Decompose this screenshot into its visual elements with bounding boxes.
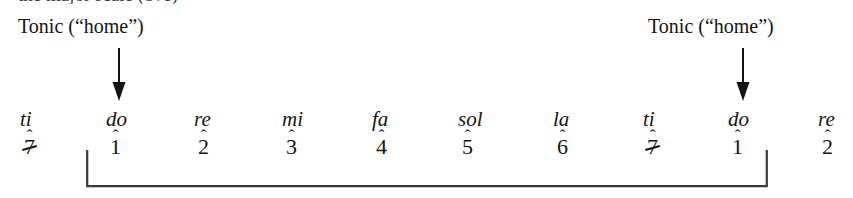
scale-degree: ˆ2 <box>822 132 833 162</box>
arrow-down-icon <box>110 48 128 102</box>
clipped-heading-text: the major scale (8ve) <box>18 0 838 4</box>
scale-degree-number: 7 <box>24 136 35 158</box>
arrow-down-icon <box>734 48 752 102</box>
scale-degree-number: 2 <box>822 136 833 158</box>
tonic-label-left: Tonic (“home”) <box>18 14 144 38</box>
tonic-label-right: Tonic (“home”) <box>648 14 774 38</box>
solfege-scale-figure: the major scale (8ve) Tonic (“home”) Ton… <box>0 0 853 198</box>
octave-span-bracket <box>86 150 768 190</box>
scale-degree: ˆ7 <box>24 132 35 162</box>
